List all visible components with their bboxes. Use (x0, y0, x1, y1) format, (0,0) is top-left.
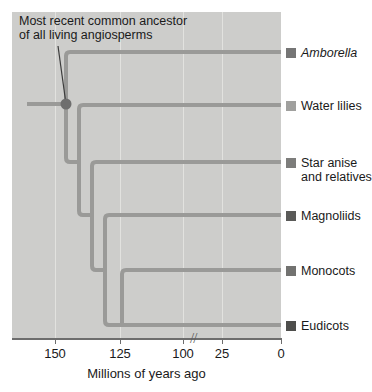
tick-mark-100 (183, 338, 184, 344)
legend-entry-monocots: Monocots (286, 264, 355, 278)
tick-mark-25 (222, 338, 223, 344)
x-axis-title: Millions of years ago (0, 366, 293, 381)
annotation-label: Most recent common ancestor of all livin… (19, 14, 187, 42)
legend-entry-water-lilies: Water lilies (286, 99, 362, 113)
legend-entry-eudicots: Eudicots (286, 319, 349, 333)
gridline-150 (55, 12, 56, 338)
legend-label-amborella: Amborella (301, 46, 357, 60)
legend-swatch-icon (286, 266, 296, 276)
gridline-125 (120, 12, 121, 338)
legend-label-monocots: Monocots (301, 264, 355, 278)
axis-break-symbol: // (190, 330, 196, 347)
legend-entry-star-anise: Star anise and relatives (286, 156, 372, 184)
legend-swatch-icon (286, 158, 296, 168)
tick-label-150: 150 (44, 346, 66, 361)
tick-label-125: 125 (109, 346, 131, 361)
legend-label-star-anise: Star anise and relatives (301, 156, 372, 184)
gridline-25 (222, 12, 223, 338)
tick-mark-0 (281, 338, 282, 344)
legend-label-eudicots: Eudicots (301, 319, 349, 333)
legend-swatch-icon (286, 321, 296, 331)
gridline-100 (183, 12, 184, 338)
tick-label-100: 100 (172, 346, 194, 361)
legend-swatch-icon (286, 48, 296, 58)
legend-label-water-lilies: Water lilies (301, 99, 362, 113)
legend-entry-amborella: Amborella (286, 46, 357, 60)
legend-entry-magnoliids: Magnoliids (286, 209, 361, 223)
plot-area (12, 12, 281, 338)
tick-mark-125 (120, 338, 121, 344)
legend-label-magnoliids: Magnoliids (301, 209, 361, 223)
legend-swatch-icon (286, 211, 296, 221)
tick-mark-150 (55, 338, 56, 344)
legend-swatch-icon (286, 101, 296, 111)
tick-label-25: 25 (215, 346, 229, 361)
phylogenetic-tree-figure: Most recent common ancestor of all livin… (0, 0, 372, 392)
x-axis-line (12, 338, 281, 340)
tick-label-0: 0 (277, 346, 284, 361)
